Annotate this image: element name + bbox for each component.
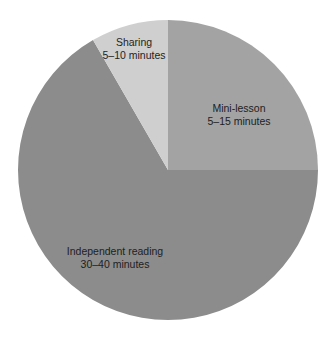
- pie-chart: [0, 0, 332, 338]
- pie-slices: [18, 20, 318, 320]
- label-sharing: Sharing 5–10 minutes: [102, 36, 165, 61]
- label-mini-lesson: Mini-lesson 5–15 minutes: [207, 102, 270, 127]
- label-sharing-title: Sharing: [102, 36, 165, 49]
- label-mini-lesson-title: Mini-lesson: [207, 102, 270, 115]
- label-mini-lesson-time: 5–15 minutes: [207, 115, 270, 128]
- label-sharing-time: 5–10 minutes: [102, 49, 165, 62]
- label-independent-reading: Independent reading 30–40 minutes: [67, 245, 163, 270]
- label-independent-reading-title: Independent reading: [67, 245, 163, 258]
- label-independent-reading-time: 30–40 minutes: [67, 258, 163, 271]
- pie-slice-mini-lesson: [168, 20, 318, 170]
